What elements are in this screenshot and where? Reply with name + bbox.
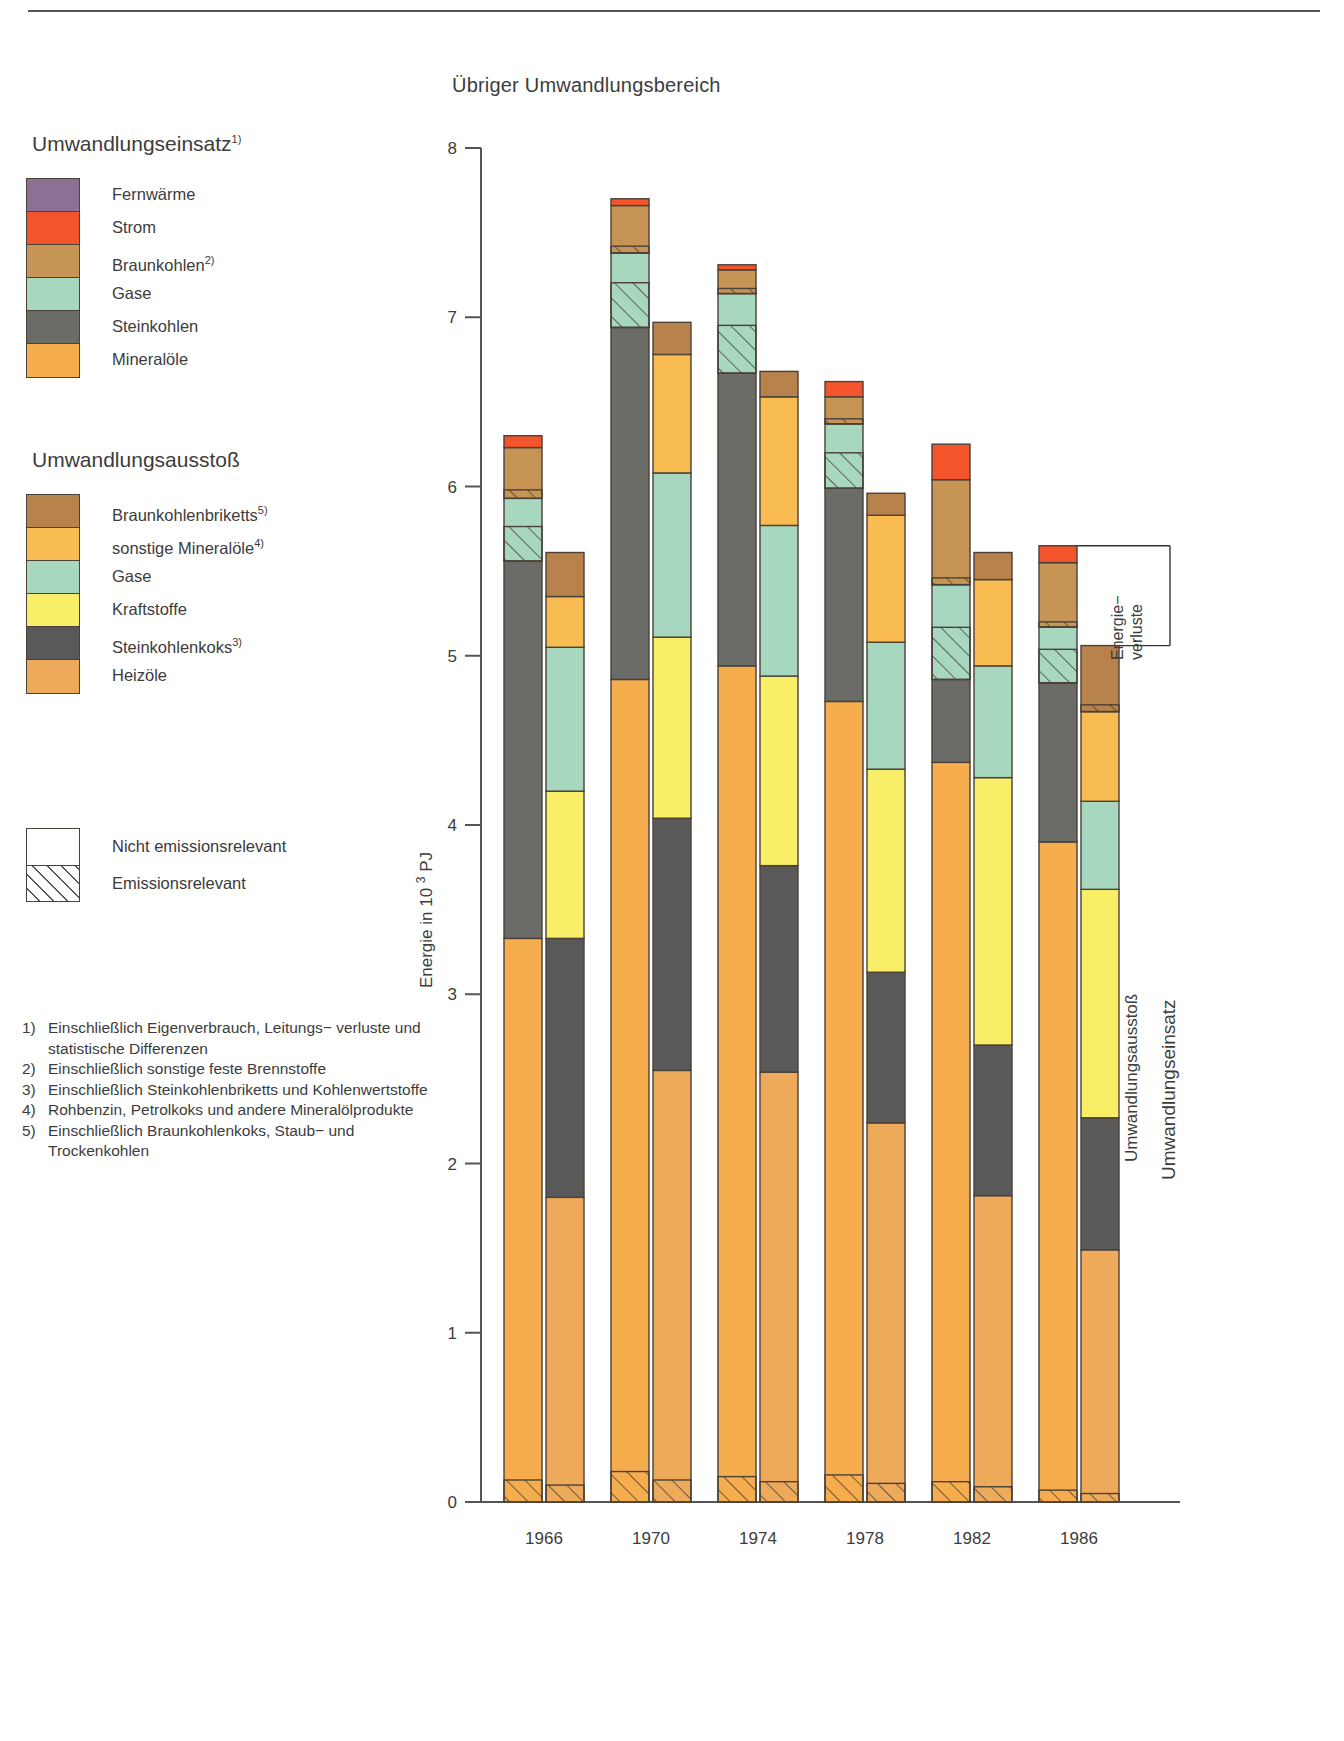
bar-segment-steinkohlenkoks xyxy=(974,1045,1012,1196)
segment-fill xyxy=(867,1123,905,1502)
segment-emission-relevant xyxy=(611,246,649,253)
bar-segment-strom xyxy=(718,265,756,270)
chart-title: Übriger Umwandlungsbereich xyxy=(452,74,721,97)
segment-fill xyxy=(825,488,863,701)
bar-segment-braunkohlenbriketts xyxy=(974,553,1012,580)
bar-segment-steinkohlen xyxy=(504,561,542,938)
legend-swatch-strom xyxy=(27,212,79,245)
segment-fill xyxy=(760,525,798,676)
segment-fill xyxy=(974,666,1012,778)
y-axis-tick-label: 6 xyxy=(448,478,457,497)
segment-fill xyxy=(1039,546,1077,563)
footnote-text: Einschließlich Steinkohlenbriketts und K… xyxy=(48,1080,442,1101)
bar-segment-heiz-le xyxy=(867,1123,905,1502)
footnote-number: 5) xyxy=(22,1121,48,1162)
bar-segment-gase xyxy=(611,253,649,327)
segment-fill xyxy=(718,270,756,294)
bar-segment-sonstige-mineral-le xyxy=(653,354,691,472)
segment-emission-relevant xyxy=(1039,1490,1077,1502)
bar-segment-steinkohlenkoks xyxy=(1081,1118,1119,1250)
y-axis-title: Energie in 10 3 PJ xyxy=(414,852,436,988)
segment-fill xyxy=(611,199,649,206)
legend-label-sonstige-mineral-le: sonstige Mineralöle4) xyxy=(112,527,268,560)
segment-fill xyxy=(1081,1250,1119,1502)
legend-swatch-column xyxy=(26,494,80,694)
segment-fill xyxy=(718,265,756,270)
bar-segment-gase xyxy=(932,585,970,680)
energieverluste-label: Energie−verluste xyxy=(1108,596,1146,661)
footnote-number: 3) xyxy=(22,1080,48,1101)
pattern-solid-swatch xyxy=(27,829,79,865)
bar-segment-braunkohlen xyxy=(1039,563,1077,627)
bar-segment-steinkohlen xyxy=(825,488,863,701)
segment-emission-relevant xyxy=(546,1485,584,1502)
segment-emission-relevant xyxy=(1039,622,1077,627)
segment-fill xyxy=(825,424,863,488)
bar-segment-heiz-le xyxy=(653,1070,691,1502)
bar-segment-gase xyxy=(974,666,1012,778)
y-axis-tick-label: 7 xyxy=(448,308,457,327)
axis-label-umwandlungseinsatz: Umwandlungseinsatz xyxy=(1158,999,1180,1180)
bar-segment-gase xyxy=(653,473,691,637)
segment-fill xyxy=(504,436,542,448)
top-rule xyxy=(28,10,1320,12)
legend-label-steinkohlenkoks: Steinkohlenkoks3) xyxy=(112,626,268,659)
bar-segment-sonstige-mineral-le xyxy=(1081,712,1119,802)
segment-fill xyxy=(546,938,584,1197)
footnote: 3)Einschließlich Steinkohlenbriketts und… xyxy=(22,1080,442,1101)
footnote: 2)Einschließlich sonstige feste Brennsto… xyxy=(22,1059,442,1080)
segment-fill xyxy=(760,866,798,1072)
segment-emission-relevant xyxy=(974,1487,1012,1502)
segment-emission-relevant xyxy=(718,1477,756,1502)
bar-segment-kraftstoffe xyxy=(1081,889,1119,1117)
bar-segment-braunkohlen xyxy=(611,206,649,253)
segment-fill xyxy=(932,679,970,762)
segment-emission-relevant xyxy=(718,288,756,293)
footnote-number: 1) xyxy=(22,1018,48,1059)
bar-segment-braunkohlenbriketts xyxy=(546,553,584,597)
segment-emission-relevant xyxy=(1039,649,1077,683)
bar-segment-heiz-le xyxy=(974,1196,1012,1502)
footnote-text: Rohbenzin, Petrolkoks und andere Mineral… xyxy=(48,1100,442,1121)
segment-fill xyxy=(760,676,798,866)
segment-fill xyxy=(867,769,905,972)
segment-emission-relevant xyxy=(867,1483,905,1502)
legend-swatch-braunkohlen xyxy=(27,245,79,278)
axis-label-umwandlungsausstoss: Umwandlungsausstoß xyxy=(1122,994,1142,1162)
legend-swatch-steinkohlen xyxy=(27,311,79,344)
bar-segment-sonstige-mineral-le xyxy=(867,515,905,642)
segment-fill xyxy=(1081,1118,1119,1250)
legend-label-gase: Gase xyxy=(112,560,268,593)
bar-segment-gase xyxy=(1039,627,1077,683)
segment-fill xyxy=(1039,842,1077,1502)
bar-segment-gase xyxy=(1081,801,1119,889)
footnote: 1)Einschließlich Eigenverbrauch, Leitung… xyxy=(22,1018,442,1059)
segment-emission-relevant xyxy=(653,1480,691,1502)
footnote-text: Einschließlich sonstige feste Brennstoff… xyxy=(48,1059,442,1080)
segment-fill xyxy=(825,397,863,424)
legend-label-kraftstoffe: Kraftstoffe xyxy=(112,593,268,626)
segment-emission-relevant xyxy=(504,527,542,561)
legend-swatch-gase xyxy=(27,278,79,311)
pattern-label-nicht-emissionsrelevant: Nicht emissionsrelevant xyxy=(112,828,286,865)
legend-label-mineral-le: Mineralöle xyxy=(112,343,214,376)
bar-segment-gase xyxy=(504,498,542,561)
bar-segment-mineral-le xyxy=(611,679,649,1502)
bar-segment-steinkohlenkoks xyxy=(867,972,905,1123)
legend-label-column: Braunkohlenbriketts5)sonstige Mineralöle… xyxy=(112,494,268,692)
segment-fill xyxy=(718,666,756,1502)
segment-fill xyxy=(1081,712,1119,802)
segment-fill xyxy=(653,473,691,637)
segment-fill xyxy=(718,373,756,666)
bar-segment-mineral-le xyxy=(1039,842,1077,1502)
segment-fill xyxy=(760,397,798,526)
bar-segment-braunkohlen xyxy=(825,397,863,424)
bar-segment-mineral-le xyxy=(825,701,863,1502)
segment-fill xyxy=(867,493,905,515)
legend-label-steinkohlen: Steinkohlen xyxy=(112,310,214,343)
x-axis-tick-label: 1970 xyxy=(632,1529,670,1548)
pattern-swatch-box xyxy=(26,828,80,902)
segment-fill xyxy=(653,354,691,472)
bar-segment-steinkohlenkoks xyxy=(546,938,584,1197)
segment-fill xyxy=(1039,563,1077,627)
